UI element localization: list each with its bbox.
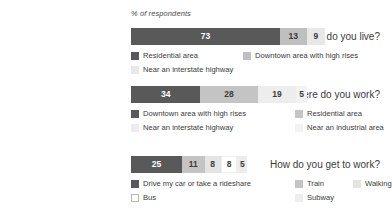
legend-label: Downtown area with high rises bbox=[143, 110, 246, 118]
legend-item[interactable]: Near an interstate highway bbox=[131, 124, 233, 132]
bar-segment-value: 25 bbox=[152, 160, 161, 169]
bar-segment: 5 bbox=[296, 86, 306, 103]
category-label: How do you get to work? bbox=[254, 156, 380, 173]
stacked-bar: 73139 bbox=[131, 28, 325, 45]
legend-label: Train bbox=[307, 180, 324, 188]
legend-item[interactable]: Bus bbox=[131, 194, 156, 202]
bar-segment-value: 11 bbox=[189, 160, 198, 169]
bar-segment-value: 5 bbox=[299, 90, 304, 99]
legend-item[interactable]: Near an interstate highway bbox=[131, 66, 233, 74]
bar-segment: 11 bbox=[182, 156, 204, 173]
bar-segment: 5 bbox=[237, 156, 247, 173]
legend-item[interactable]: Residential area bbox=[131, 52, 198, 60]
legend-swatch-icon bbox=[131, 180, 139, 188]
legend-swatch-icon bbox=[131, 124, 139, 132]
legend-swatch-icon bbox=[353, 180, 361, 188]
bar-segment-value: 19 bbox=[272, 90, 281, 99]
legend-swatch-icon bbox=[131, 66, 139, 74]
stacked-bar: 3428195 bbox=[131, 86, 307, 103]
bar-segment-value: 13 bbox=[289, 32, 298, 41]
bar-segment: 28 bbox=[200, 86, 257, 103]
legend-label: Near an industrial area bbox=[307, 124, 384, 132]
legend-label: Near an interstate highway bbox=[143, 66, 233, 74]
bar-segment: 8 bbox=[221, 156, 237, 173]
legend-swatch-icon bbox=[295, 110, 303, 118]
legend-item[interactable]: Residential area bbox=[295, 110, 362, 118]
bar-segment-value: 28 bbox=[224, 90, 233, 99]
bar-segment: 9 bbox=[307, 28, 325, 45]
bar-segment: 25 bbox=[131, 156, 182, 173]
bar-segment-value: 8 bbox=[227, 160, 232, 169]
bar-segment: 73 bbox=[131, 28, 280, 45]
legend-label: Residential area bbox=[143, 52, 198, 60]
legend-item[interactable]: Downtown area with high rises bbox=[243, 52, 358, 60]
legend-item[interactable]: Downtown area with high rises bbox=[131, 110, 246, 118]
bar-segment: 19 bbox=[258, 86, 297, 103]
legend-item[interactable]: Train bbox=[295, 180, 324, 188]
bar-segment-value: 9 bbox=[313, 32, 318, 41]
axis-title: % of respondents bbox=[131, 9, 191, 18]
bar-segment-value: 73 bbox=[201, 32, 210, 41]
bar-segment-value: 5 bbox=[240, 160, 245, 169]
legend-item[interactable]: Drive my car or take a rideshare bbox=[131, 180, 251, 188]
bar-segment-value: 34 bbox=[161, 90, 170, 99]
legend-label: Walking bbox=[365, 180, 392, 188]
legend-swatch-icon bbox=[131, 52, 139, 60]
legend-label: Near an interstate highway bbox=[143, 124, 233, 132]
bar-segment-value: 8 bbox=[210, 160, 215, 169]
bar-segment: 13 bbox=[280, 28, 307, 45]
legend-label: Residential area bbox=[307, 110, 362, 118]
legend-label: Bus bbox=[143, 194, 156, 202]
legend-swatch-icon bbox=[295, 124, 303, 132]
legend-item[interactable]: Walking bbox=[353, 180, 392, 188]
bar-segment: 34 bbox=[131, 86, 200, 103]
legend-item[interactable]: Subway bbox=[295, 194, 334, 202]
legend-item[interactable]: Near an industrial area bbox=[295, 124, 384, 132]
legend-label: Subway bbox=[307, 194, 334, 202]
legend-label: Downtown area with high rises bbox=[255, 52, 358, 60]
legend-swatch-icon bbox=[131, 194, 139, 202]
legend-swatch-icon bbox=[295, 194, 303, 202]
legend-swatch-icon bbox=[243, 52, 251, 60]
legend-label: Drive my car or take a rideshare bbox=[143, 180, 251, 188]
legend-swatch-icon bbox=[131, 110, 139, 118]
stacked-bar: 2511885 bbox=[131, 156, 247, 173]
legend-swatch-icon bbox=[295, 180, 303, 188]
bar-segment: 8 bbox=[205, 156, 221, 173]
